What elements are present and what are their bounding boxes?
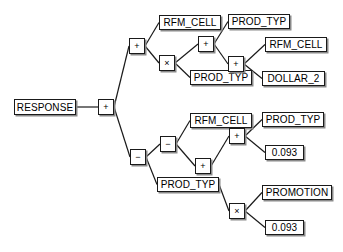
edge-op_plus_a-to-var_rfm_1 (145, 23, 159, 47)
edge-op_minus_b-to-op_plus_d (176, 144, 195, 166)
operator-node-op_plus_b: + (198, 36, 214, 52)
leaf-node-num_093_a: 0.093 (265, 145, 304, 160)
edge-op_plus_d-to-op_plus_e (211, 136, 229, 166)
leaf-node-var_prod_1: PROD_TYP (228, 14, 290, 29)
edge-op_mult_b-to-var_promo (245, 193, 262, 212)
leaf-node-var_prod_4: PROD_TYP (157, 177, 219, 192)
edge-op_plus_a-to-op_mult_a (145, 46, 159, 63)
leaf-node-var_prod_3: PROD_TYP (262, 112, 324, 127)
leaf-node-var_rfm_2: RFM_CELL (265, 37, 327, 52)
edge-op_plus_e-to-num_093_a (245, 136, 265, 153)
operator-node-op_plus_e: + (229, 128, 245, 144)
leaf-node-var_rfm_1: RFM_CELL (159, 15, 221, 30)
edge-op_minus_a-to-op_minus_b (146, 144, 160, 157)
leaf-node-var_prod_2: PROD_TYP (190, 70, 252, 85)
leaf-node-num_093_b: 0.093 (265, 220, 304, 235)
edge-op_minus_b-to-var_rfm_3 (176, 121, 190, 145)
operator-node-op_minus_b: − (160, 136, 176, 152)
edge-root_plus-to-op_minus_a (114, 107, 130, 157)
edge-op_plus_c-to-var_rfm_2 (244, 45, 265, 65)
operator-node-op_plus_c: + (228, 56, 244, 72)
edge-op_mult_a-to-op_plus_b (175, 44, 198, 63)
edge-op_mult_b-to-num_093_b (245, 211, 265, 228)
leaf-node-response: RESPONSE (14, 99, 76, 115)
operator-node-op_plus_a: + (129, 38, 145, 54)
edge-op_mult_a-to-var_prod_2 (175, 63, 190, 78)
leaf-node-var_dollar: DOLLAR_2 (262, 71, 325, 86)
operator-node-op_mult_a: × (159, 55, 175, 71)
edge-var_prod_4-to-op_mult_b (219, 185, 229, 212)
operator-node-root_plus: + (98, 99, 114, 115)
edge-op_minus_a-to-var_prod_4 (146, 157, 157, 185)
leaf-node-var_rfm_3: RFM_CELL (190, 113, 252, 128)
operator-node-op_mult_b: × (229, 203, 245, 219)
expression-tree-diagram: RESPONSE++RFM_CELL×+PROD_TYPPROD_TYP+RFM… (0, 0, 343, 252)
operator-node-op_plus_d: + (195, 158, 211, 174)
edge-root_plus-to-op_plus_a (114, 46, 129, 107)
leaf-node-var_promo: PROMOTION (262, 185, 332, 200)
edge-op_plus_b-to-op_plus_c (214, 44, 228, 64)
operator-node-op_minus_a: − (130, 149, 146, 165)
